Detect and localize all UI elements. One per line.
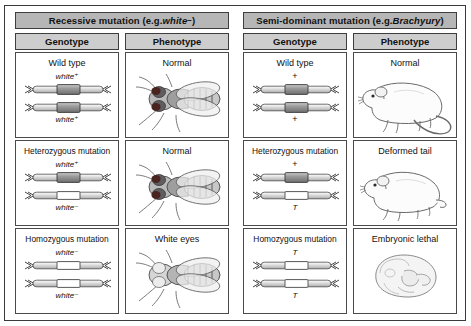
phenotype-cell-right-homozygous: Embryonic lethal (353, 228, 457, 314)
phenotype-title-right-1: Deformed tail (354, 146, 456, 156)
panel-header-recessive-prefix: Recessive mutation (e.g. (49, 15, 163, 26)
genotype-cell-right-homozygous: Homozygous mutation T (243, 228, 347, 314)
chromosome-left-2-top (24, 258, 112, 271)
chromosome-right-1-top (252, 170, 340, 183)
chromosome-right-1-bottom (252, 188, 340, 201)
chromosome-pair-left-1: white⁺ (16, 160, 118, 225)
allele-label-right-1-top: + (244, 160, 346, 169)
chromosome-right-2-top (252, 258, 340, 271)
genotype-cell-left-heterozygous: Heterozygous mutation white⁺ (15, 140, 119, 226)
genotype-cell-left-homozygous: Homozygous mutation white⁻ (15, 228, 119, 314)
phenotype-cell-right-wildtype: Normal (353, 52, 457, 138)
column-header-phenotype-right: Phenotype (353, 33, 457, 50)
allele-label-left-0-bottom: white⁺ (16, 115, 118, 124)
allele-label-right-2-bottom: T (244, 291, 346, 300)
chromosome-left-1-top (24, 170, 112, 183)
chromosome-pair-left-2: white⁻ (16, 248, 118, 313)
fly-illustration-white-eyes (126, 245, 228, 311)
panel-header-recessive-suffix: ) (192, 15, 195, 26)
panel-header-recessive-gene: white (162, 15, 187, 26)
panel-recessive-mutation: Recessive mutation (e.g. white−) Genotyp… (11, 12, 233, 316)
phenotype-cell-left-heterozygous: Normal (125, 140, 229, 226)
chromosome-pair-right-1: + (244, 160, 346, 225)
fly-illustration-normal-1 (126, 157, 228, 223)
chromosome-right-0-top (252, 82, 340, 95)
allele-label-left-1-top: white⁺ (16, 160, 118, 169)
chromosome-left-0-top (24, 82, 112, 95)
column-header-genotype-left: Genotype (15, 33, 119, 50)
genotype-title-left-0: Wild type (16, 58, 118, 68)
allele-label-left-2-bottom: white⁻ (16, 291, 118, 300)
genetics-comparison-figure: Recessive mutation (e.g. white−) Genotyp… (0, 0, 471, 326)
genotype-cell-right-wildtype: Wild type + (243, 52, 347, 138)
genotype-title-left-2: Homozygous mutation (16, 234, 118, 244)
chromosome-left-1-bottom (24, 188, 112, 201)
chromosome-pair-right-2: T (244, 248, 346, 313)
genotype-title-left-1: Heterozygous mutation (16, 146, 118, 156)
embryo-illustration (354, 245, 456, 311)
chromosome-right-0-bottom (252, 100, 340, 113)
genotype-cell-left-wildtype: Wild type white⁺ (15, 52, 119, 138)
genotype-title-right-2: Homozygous mutation (244, 234, 346, 244)
column-header-phenotype-left: Phenotype (125, 33, 229, 50)
allele-label-right-1-bottom: T (244, 203, 346, 212)
allele-label-left-2-top: white⁻ (16, 248, 118, 257)
chromosome-pair-right-0: + (244, 72, 346, 137)
fly-illustration-normal-0 (126, 69, 228, 135)
panel-header-semidominant-gene: Brachyury (393, 15, 441, 26)
chromosome-pair-left-0: white⁺ (16, 72, 118, 137)
chromosome-left-0-bottom (24, 100, 112, 113)
genotype-title-right-1: Heterozygous mutation (244, 146, 346, 156)
phenotype-title-left-1: Normal (126, 146, 228, 156)
genotype-cell-right-heterozygous: Heterozygous mutation + (243, 140, 347, 226)
panel-header-semidominant: Semi-dominant mutation (e.g. Brachyury) (243, 12, 457, 29)
chromosome-right-2-bottom (252, 276, 340, 289)
panel-header-recessive: Recessive mutation (e.g. white−) (15, 12, 229, 29)
figure-frame: Recessive mutation (e.g. white−) Genotyp… (4, 5, 466, 321)
allele-label-left-1-bottom: white⁻ (16, 203, 118, 212)
allele-label-right-2-top: T (244, 248, 346, 257)
allele-label-right-0-bottom: + (244, 115, 346, 124)
column-header-genotype-right: Genotype (243, 33, 347, 50)
panel-header-semidominant-prefix: Semi-dominant mutation (e.g. (256, 15, 392, 26)
chromosome-left-2-bottom (24, 276, 112, 289)
phenotype-title-left-0: Normal (126, 58, 228, 68)
phenotype-title-right-2: Embryonic lethal (354, 234, 456, 244)
phenotype-title-left-2: White eyes (126, 234, 228, 244)
panel-header-semidominant-suffix: ) (440, 15, 443, 26)
phenotype-title-right-0: Normal (354, 58, 456, 68)
allele-label-right-0-top: + (244, 72, 346, 81)
phenotype-cell-left-wildtype: Normal (125, 52, 229, 138)
phenotype-cell-left-homozygous: White eyes (125, 228, 229, 314)
mouse-illustration-normal (354, 68, 456, 136)
allele-label-left-0-top: white⁺ (16, 72, 118, 81)
phenotype-cell-right-heterozygous: Deformed tail (353, 140, 457, 226)
mouse-illustration-deformed-tail (354, 156, 456, 224)
panel-semidominant-mutation: Semi-dominant mutation (e.g. Brachyury) … (239, 12, 461, 316)
genotype-title-right-0: Wild type (244, 58, 346, 68)
